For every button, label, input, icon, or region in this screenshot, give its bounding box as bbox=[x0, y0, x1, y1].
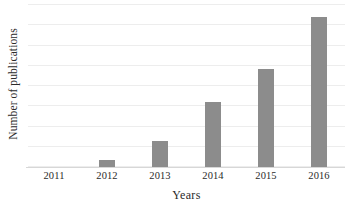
bars-layer bbox=[28, 4, 345, 167]
x-tick-label-2014: 2014 bbox=[190, 170, 236, 181]
plot-area bbox=[28, 4, 345, 167]
y-axis-title: Number of publications bbox=[0, 0, 26, 167]
x-axis-tick-labels: 201120122013201420152016 bbox=[28, 170, 345, 186]
bar-2012[interactable] bbox=[99, 160, 115, 167]
x-tick-label-2016: 2016 bbox=[296, 170, 342, 181]
bar-2014[interactable] bbox=[205, 102, 221, 167]
y-axis-title-text: Number of publications bbox=[7, 28, 19, 139]
x-axis-line bbox=[26, 167, 345, 168]
x-tick-label-2013: 2013 bbox=[137, 170, 183, 181]
x-axis-title: Years bbox=[28, 188, 345, 203]
bar-2015[interactable] bbox=[258, 69, 274, 167]
x-tick-label-2011: 2011 bbox=[31, 170, 77, 181]
x-tick-label-2015: 2015 bbox=[243, 170, 289, 181]
bar-2013[interactable] bbox=[152, 141, 168, 167]
bar-chart-figure: Number of publications 20112012201320142… bbox=[0, 0, 351, 214]
x-tick-label-2012: 2012 bbox=[84, 170, 130, 181]
bar-2016[interactable] bbox=[311, 17, 327, 167]
